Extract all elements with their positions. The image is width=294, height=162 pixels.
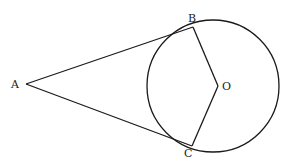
label-o: O xyxy=(222,81,231,92)
diagram-canvas: A B C O xyxy=(0,0,294,162)
tangent-ac xyxy=(26,84,192,146)
radius-oc xyxy=(192,86,218,146)
radius-ob xyxy=(193,27,218,86)
tangent-ab xyxy=(26,27,193,84)
label-a: A xyxy=(11,79,19,90)
diagram-svg xyxy=(0,0,294,162)
label-b: B xyxy=(188,13,196,24)
circle xyxy=(147,20,279,152)
label-c: C xyxy=(184,148,192,159)
